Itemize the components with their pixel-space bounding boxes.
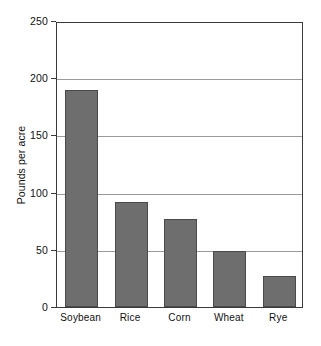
y-axis-tick-label: 250	[8, 16, 48, 27]
y-axis-tick-label: 150	[8, 130, 48, 141]
x-axis-tick-label: Rye	[254, 312, 303, 324]
x-axis-tick-label: Corn	[155, 312, 204, 324]
bar	[213, 251, 246, 307]
bar	[65, 90, 98, 307]
gridline	[57, 79, 302, 80]
y-axis-tick-label: 0	[8, 302, 48, 313]
x-axis-tick-label: Rice	[105, 312, 154, 324]
bar-chart-figure: Pounds per acre 050100150200250 SoybeanR…	[0, 0, 321, 346]
bar	[164, 219, 197, 307]
bar	[115, 202, 148, 307]
plot-area	[56, 22, 303, 308]
x-axis-tick-label: Wheat	[204, 312, 253, 324]
bar	[263, 276, 296, 307]
y-axis-tick-label: 50	[8, 245, 48, 256]
y-axis-tick-label: 200	[8, 73, 48, 84]
x-axis-tick-label: Soybean	[56, 312, 105, 324]
y-axis-title: Pounds per acre	[14, 22, 28, 308]
y-axis-tick-label: 100	[8, 188, 48, 199]
